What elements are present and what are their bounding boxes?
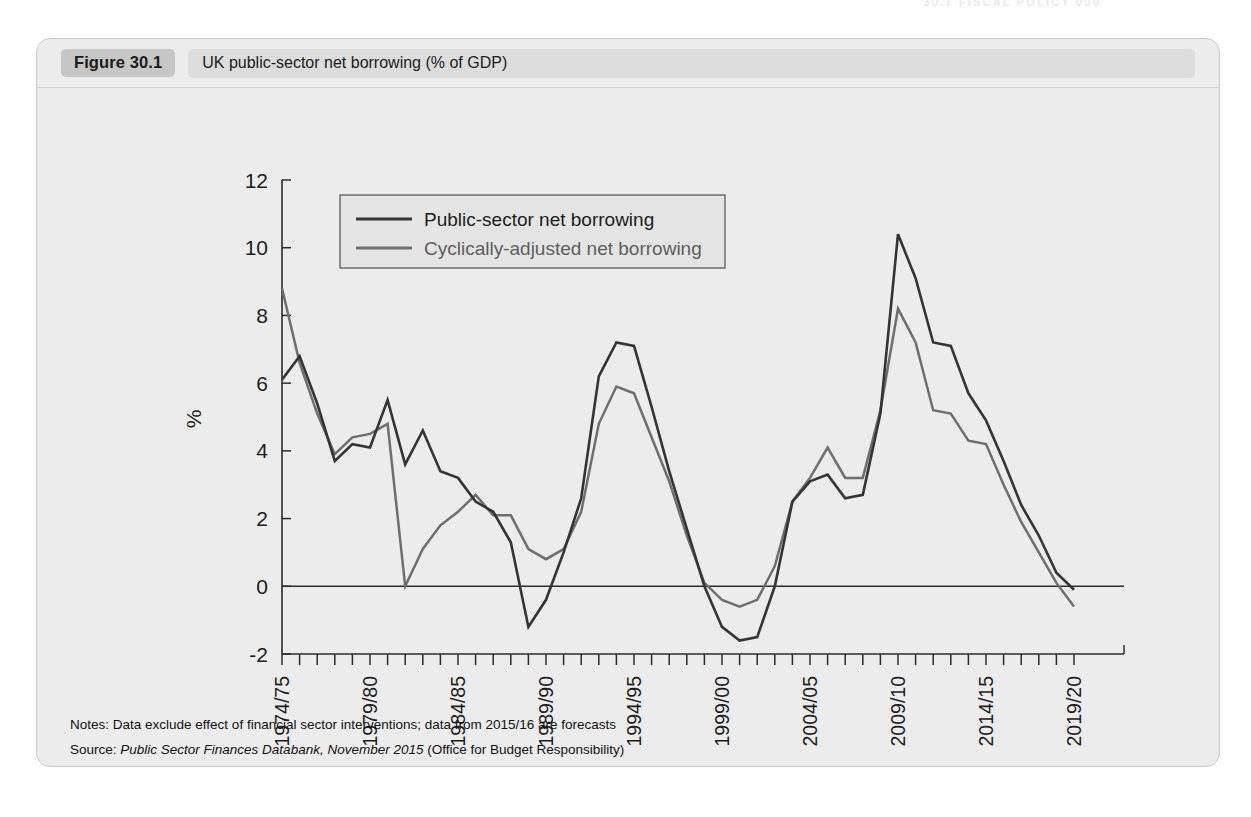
running-header: 30.1 FISCAL POLICY 000 [923, 0, 1101, 8]
y-tick-label: -2 [249, 643, 268, 666]
x-tick-label: 2014/15 [975, 676, 997, 747]
figure-notes: Notes: Data exclude effect of financial … [70, 717, 616, 732]
notes-text: Data exclude effect of financial sector … [113, 717, 616, 732]
chart-plot-area: -20246810121974/751979/801984/851989/901… [51, 89, 1207, 753]
figure-caption: UK public-sector net borrowing (% of GDP… [188, 49, 1195, 78]
y-tick-label: 8 [256, 304, 268, 327]
legend-label: Cyclically-adjusted net borrowing [424, 238, 702, 259]
source-label: Source: [70, 742, 117, 757]
series-line-public-sector-net-borrowing [282, 234, 1074, 640]
x-tick-label: 2019/20 [1063, 676, 1085, 747]
x-tick-label: 2004/05 [799, 676, 821, 747]
x-tick-label: 1984/85 [447, 676, 469, 747]
x-tick-label: 1979/80 [359, 676, 381, 747]
x-tick-label: 1974/75 [271, 676, 293, 747]
source-title: Public Sector Finances Databank, Novembe… [120, 742, 423, 757]
x-tick-label: 1994/95 [623, 676, 645, 747]
x-tick-label: 1999/00 [711, 676, 733, 747]
x-tick-label: 1989/90 [535, 676, 557, 747]
x-tick-label: 2009/10 [887, 676, 909, 747]
figure-caption-bar: Figure 30.1 UK public-sector net borrowi… [37, 39, 1219, 88]
figure-source: Source: Public Sector Finances Databank,… [70, 742, 624, 757]
notes-label: Notes: [70, 717, 109, 732]
source-publisher: (Office for Budget Responsibility) [427, 742, 624, 757]
y-tick-label: 6 [256, 372, 268, 395]
y-tick-label: 4 [256, 439, 268, 462]
line-chart: -20246810121974/751979/801984/851989/901… [51, 89, 1207, 753]
y-tick-label: 10 [245, 236, 268, 259]
y-tick-label: 0 [256, 575, 268, 598]
legend-label: Public-sector net borrowing [424, 209, 654, 230]
y-axis-title: % [182, 410, 205, 429]
figure-number: Figure 30.1 [61, 49, 175, 77]
figure-card: Figure 30.1 UK public-sector net borrowi… [36, 38, 1220, 767]
figure-page: 30.1 FISCAL POLICY 000 Figure 30.1 UK pu… [0, 0, 1251, 817]
y-tick-label: 2 [256, 507, 268, 530]
y-tick-label: 12 [245, 169, 268, 192]
